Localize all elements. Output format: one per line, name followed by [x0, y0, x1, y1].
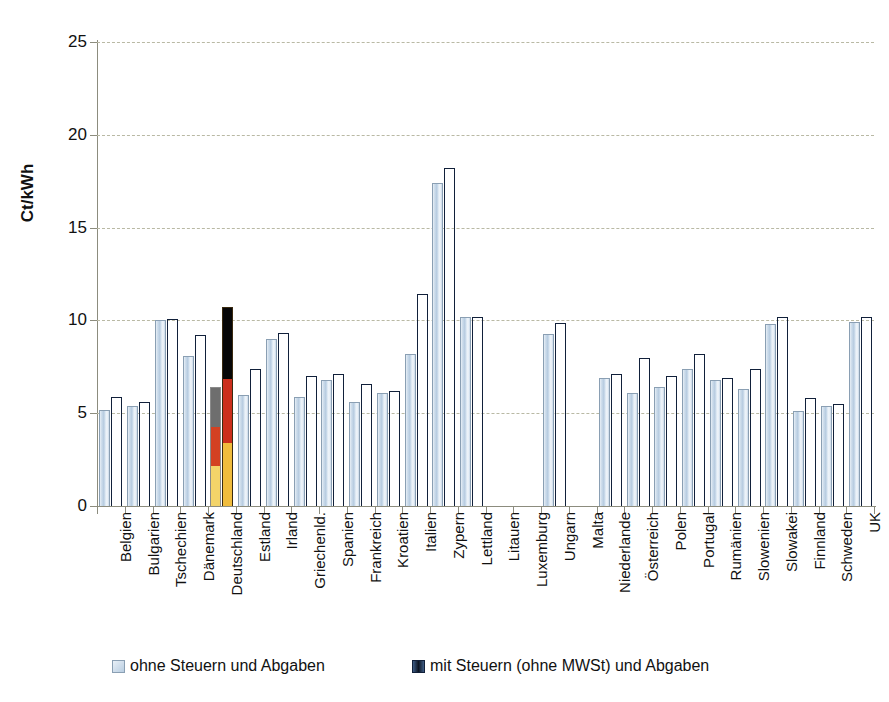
bar-series-without-taxes [432, 183, 443, 506]
bar-group [266, 42, 289, 506]
x-axis-label: Litauen [505, 512, 522, 632]
y-tick-label: 10 [45, 310, 87, 330]
bar-series-with-taxes [833, 404, 844, 506]
bar-group [821, 42, 844, 506]
x-axis-label: Italien [422, 512, 439, 632]
bar-series-with-taxes [777, 317, 788, 506]
bar-series-without-taxes [793, 411, 804, 506]
bar-series-with-taxes [278, 333, 289, 506]
legend-swatch-dark [412, 660, 425, 673]
bar-series-with-taxes [805, 398, 816, 506]
bar-group [793, 42, 816, 506]
bar-series-without-taxes [682, 369, 693, 506]
bar-group [543, 42, 566, 506]
bar-series-without-taxes [654, 387, 665, 506]
bar-group [183, 42, 206, 506]
bar-series-without-taxes [627, 393, 638, 506]
x-axis-label: Schweden [838, 512, 855, 632]
bar-series-with-taxes [306, 376, 317, 506]
x-axis-label: Österreich [644, 512, 661, 632]
chart-legend: ohne Steuern und Abgabenmit Steuern (ohn… [112, 658, 812, 684]
bar-group [571, 42, 594, 506]
x-axis-label: Dänemark [200, 512, 217, 632]
y-tick-label: 25 [45, 32, 87, 52]
bar-group [682, 42, 705, 506]
bar-group [654, 42, 677, 506]
legend-item[interactable]: mit Steuern (ohne MWSt) und Abgaben [412, 658, 709, 674]
bar-group [377, 42, 400, 506]
bar-series-with-taxes [139, 402, 150, 506]
bar-group [321, 42, 344, 506]
bar-series-with-taxes [417, 294, 428, 506]
bar-series-with-taxes [195, 335, 206, 506]
bar-series-with-taxes [361, 384, 372, 506]
bar-series-without-taxes [821, 406, 832, 506]
bar-group [127, 42, 150, 506]
bar-group [349, 42, 372, 506]
bars-layer [97, 42, 874, 506]
bar-series-with-taxes [611, 374, 622, 506]
bar-series-with-taxes [222, 307, 233, 506]
x-axis-label: Belgien [117, 512, 134, 632]
legend-item[interactable]: ohne Steuern und Abgaben [112, 658, 325, 674]
x-axis-label: Irland [283, 512, 300, 632]
x-axis-label: Tschechien [172, 512, 189, 632]
x-axis-label: Lettland [478, 512, 495, 632]
bar-series-without-taxes [710, 380, 721, 506]
bar-series-with-taxes [639, 358, 650, 506]
y-tick-mark-5 [90, 413, 97, 414]
x-axis-label: UK [866, 512, 883, 632]
bar-group [488, 42, 511, 506]
bar-group [294, 42, 317, 506]
bar-series-with-taxes [389, 391, 400, 506]
y-tick-mark-20 [90, 135, 97, 136]
bar-series-with-taxes [472, 317, 483, 506]
y-tick-label: 5 [45, 403, 87, 423]
bar-series-with-taxes [722, 378, 733, 506]
bar-group [849, 42, 872, 506]
x-axis-label: Griechenld. [311, 512, 328, 632]
x-axis-label: Slowakei [783, 512, 800, 632]
bar-series-with-taxes [666, 376, 677, 506]
legend-label: mit Steuern (ohne MWSt) und Abgaben [430, 658, 709, 674]
bar-group [765, 42, 788, 506]
bar-series-without-taxes [155, 320, 166, 506]
bar-series-with-taxes [111, 397, 122, 507]
bar-series-without-taxes [460, 317, 471, 506]
bar-series-without-taxes [238, 395, 249, 506]
x-axis-label: Kroatien [394, 512, 411, 632]
y-tick-mark-25 [90, 42, 97, 43]
bar-series-with-taxes [861, 317, 872, 506]
bar-series-without-taxes [183, 356, 194, 506]
bar-series-with-taxes [444, 168, 455, 506]
bar-group [238, 42, 261, 506]
bar-series-with-taxes [750, 369, 761, 506]
bar-group [155, 42, 178, 506]
bar-series-without-taxes [738, 389, 749, 506]
bar-series-with-taxes [167, 319, 178, 506]
legend-swatch-light [112, 660, 125, 673]
bar-series-without-taxes [294, 397, 305, 507]
x-axis-label: Ungarn [561, 512, 578, 632]
bar-series-with-taxes [333, 374, 344, 506]
bar-group [516, 42, 539, 506]
x-axis-label: Niederlande [616, 512, 633, 632]
x-axis-label: Portugal [700, 512, 717, 632]
bar-group [738, 42, 761, 506]
bar-series-with-taxes [250, 369, 261, 506]
legend-label: ohne Steuern und Abgaben [130, 658, 325, 674]
x-axis-label: Deutschland [228, 512, 245, 632]
y-axis-title: Ct/kWh [18, 128, 44, 258]
bar-series-without-taxes [266, 339, 277, 506]
x-axis-label: Rumänien [727, 512, 744, 632]
bar-series-without-taxes [210, 387, 221, 506]
bar-group [210, 42, 233, 506]
x-axis-label: Malta [589, 512, 606, 632]
y-tick-label: 0 [45, 496, 87, 516]
x-axis-label: Zypern [450, 512, 467, 632]
chart-figure: Ct/kWh 0510152025 BelgienBulgarienTschec… [0, 0, 889, 702]
bar-group [432, 42, 455, 506]
x-axis-label: Frankreich [367, 512, 384, 632]
x-axis-label: Finnland [811, 512, 828, 632]
y-tick-mark-0 [90, 506, 97, 507]
